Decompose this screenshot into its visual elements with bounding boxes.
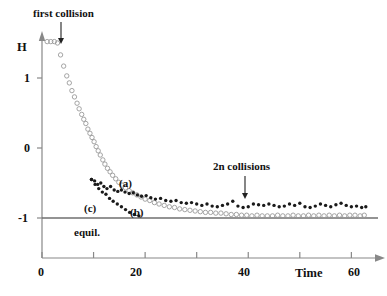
y-axis-arrow-icon (39, 31, 45, 41)
data-point (120, 205, 123, 208)
data-point (136, 193, 139, 196)
figure-canvas: first collision 2n collisions H Time 1 0… (0, 0, 387, 296)
data-point (360, 206, 363, 209)
data-point (275, 213, 279, 217)
data-point (288, 202, 291, 205)
data-point (355, 204, 358, 207)
data-point (112, 188, 115, 191)
data-point (84, 121, 88, 125)
data-point (308, 206, 311, 209)
data-point (267, 202, 270, 205)
data-point (152, 200, 156, 204)
data-point (214, 211, 218, 215)
data-point (97, 187, 100, 190)
annotation-first-collision: first collision (33, 8, 94, 19)
data-point (116, 190, 119, 193)
data-point (221, 204, 224, 207)
data-point (298, 202, 301, 205)
data-point (314, 204, 317, 207)
data-point (239, 213, 243, 217)
data-point (177, 207, 181, 211)
data-point (90, 178, 93, 181)
data-point (362, 213, 366, 217)
data-point (203, 210, 207, 214)
data-point (334, 203, 337, 206)
data-point (339, 202, 342, 205)
x-axis-arrow-icon (375, 254, 385, 262)
curve-label-a: (a) (119, 178, 132, 189)
data-point (124, 208, 127, 211)
data-point (208, 210, 212, 214)
data-point (143, 197, 147, 201)
data-point (210, 204, 213, 207)
data-point (90, 135, 94, 139)
data-point (205, 202, 208, 205)
curve-label-b: (b) (130, 207, 143, 218)
data-point (306, 213, 310, 217)
data-point (80, 112, 84, 116)
data-point (70, 88, 74, 92)
data-point (104, 193, 107, 196)
data-point (101, 190, 104, 193)
data-point (132, 191, 135, 194)
data-point (109, 185, 112, 188)
data-point (257, 203, 260, 206)
data-point (94, 144, 98, 148)
data-point (174, 199, 177, 202)
data-point (123, 190, 126, 193)
data-point (98, 153, 102, 157)
data-point (93, 183, 96, 186)
data-point (348, 213, 352, 217)
data-point (364, 205, 367, 208)
data-point (337, 213, 341, 217)
data-point (108, 197, 111, 200)
data-point (180, 201, 183, 204)
data-point (188, 208, 192, 212)
curve-label-c: (c) (84, 203, 96, 214)
data-point (183, 207, 187, 211)
annotation-2n-collisions: 2n collisions (213, 161, 270, 172)
data-point (164, 199, 167, 202)
data-point (144, 194, 147, 197)
data-point (252, 202, 255, 205)
data-point (317, 213, 321, 217)
data-point (67, 81, 71, 85)
x-tick-label-60: 60 (348, 266, 360, 278)
data-point (96, 149, 100, 153)
data-point (319, 202, 322, 205)
data-point (241, 206, 244, 209)
data-point (185, 202, 188, 205)
data-point (245, 213, 249, 217)
x-tick-label-40: 40 (238, 266, 250, 278)
y-tick-label-0: 0 (24, 142, 30, 154)
y-tick-label-minus1: -1 (18, 212, 28, 224)
data-point (293, 204, 296, 207)
data-point (324, 204, 327, 207)
data-point (140, 195, 143, 198)
data-point (272, 204, 275, 207)
data-point (236, 204, 239, 207)
data-point (283, 204, 286, 207)
y-axis-label: H (17, 41, 27, 54)
data-point (99, 181, 102, 184)
data-point (102, 185, 105, 188)
data-point (82, 117, 86, 121)
data-point (157, 202, 161, 206)
data-point (193, 209, 197, 213)
data-point (262, 204, 265, 207)
series-b (45, 39, 367, 218)
data-point (77, 107, 81, 111)
data-point (345, 204, 348, 207)
data-point (169, 200, 172, 203)
data-point (216, 205, 219, 208)
data-point (198, 210, 202, 214)
data-point (195, 202, 198, 205)
x-tick-label-0: 0 (38, 266, 44, 278)
data-point (65, 74, 69, 78)
data-point (231, 200, 234, 203)
data-point (127, 192, 130, 195)
data-point (116, 202, 119, 205)
data-point (277, 205, 280, 208)
data-point (154, 197, 157, 200)
data-point (226, 202, 229, 205)
